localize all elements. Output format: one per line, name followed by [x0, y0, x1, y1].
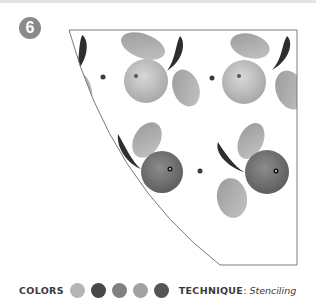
apple-motif-bottom-left	[115, 117, 183, 217]
apple-motif-top-left	[65, 35, 96, 114]
color-swatch-charcoal	[154, 283, 169, 298]
technique-label: TECHNIQUE	[179, 285, 243, 296]
panel-outline	[69, 30, 297, 265]
dot	[198, 169, 203, 174]
legend-bar: COLORS TECHNIQUE: Stenciling	[19, 281, 296, 298]
apple-motif-bottom-right	[214, 119, 289, 221]
colors-label: COLORS	[19, 285, 64, 296]
stencil-illustration	[0, 0, 316, 275]
dot	[210, 76, 215, 81]
dot	[101, 75, 106, 80]
technique-separator: :	[243, 285, 246, 296]
motif-group	[65, 27, 310, 220]
technique-value: Stenciling	[249, 285, 296, 296]
apple-motif-top-center	[117, 27, 204, 110]
color-swatch-dark-gray	[91, 283, 106, 298]
color-swatch-light-medium-gray	[133, 283, 148, 298]
technique-info: TECHNIQUE: Stenciling	[179, 285, 296, 296]
dot	[110, 165, 114, 169]
color-swatch-light-gray	[70, 283, 85, 298]
color-swatch-medium-gray	[112, 283, 127, 298]
